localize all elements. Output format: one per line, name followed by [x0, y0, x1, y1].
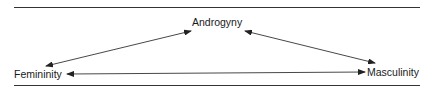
arrow-androgyny-masculinity — [245, 31, 375, 63]
femininity-label: Femininity — [14, 68, 62, 80]
androgyny-label: Androgyny — [192, 16, 242, 28]
arrow-femininity-masculinity — [67, 72, 365, 74]
masculinity-label: Masculinity — [367, 66, 419, 78]
arrow-femininity-androgyny — [46, 31, 191, 66]
